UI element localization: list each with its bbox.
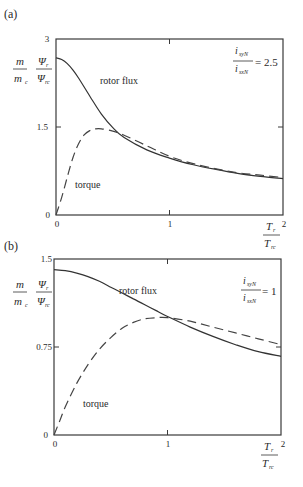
panel-a-ytick-label-top: 3 (45, 34, 50, 44)
panel-b-ytick-label-0: 0 (44, 430, 49, 440)
panel-a: (a) 3 1.5 0 0 1 2 m m c Ψ r Ψ rc i syN (4, 7, 286, 250)
svg-text:syN: syN (239, 51, 249, 57)
panel-b-torque-label: torque (83, 398, 109, 409)
svg-text:i: i (243, 292, 246, 303)
svg-text:i: i (243, 275, 246, 286)
svg-text:i: i (235, 45, 238, 56)
svg-text:T: T (266, 220, 273, 232)
ylabel-m: m (16, 55, 24, 67)
svg-text:m: m (14, 295, 22, 307)
ylabel-psi-sub: r (46, 62, 49, 68)
panel-a-ytick-label-0: 0 (46, 210, 51, 220)
panel-a-xtick-label-0: 0 (55, 219, 60, 229)
svg-text:T: T (264, 237, 271, 249)
panel-a-torque-curve (56, 129, 283, 215)
svg-text:sxN: sxN (239, 69, 249, 75)
svg-text:r: r (271, 447, 274, 453)
svg-text:rc: rc (269, 464, 274, 470)
panel-a-rotor-flux-label: rotor flux (100, 75, 138, 86)
panel-b-ylabel: m m c Ψ r Ψ rc (13, 278, 52, 308)
svg-text:T: T (264, 440, 271, 452)
panel-b-xtick-label-2: 2 (281, 439, 286, 449)
panel-a-label: (a) (4, 7, 17, 21)
svg-text:T: T (262, 457, 269, 469)
svg-text:rc: rc (271, 244, 276, 250)
svg-text:m: m (16, 278, 24, 290)
svg-text:r: r (46, 285, 49, 291)
panel-b-xlabel: T r T rc (261, 440, 278, 470)
panel-a-xtick-label-1: 1 (168, 219, 173, 229)
panel-b-torque-curve (54, 317, 281, 435)
panel-a-ylabel: m m c Ψ r Ψ rc (13, 55, 52, 85)
panel-b-ytick-label-top: 1.5 (41, 254, 53, 264)
figure: (a) 3 1.5 0 0 1 2 m m c Ψ r Ψ rc i syN (0, 0, 303, 487)
panel-a-ytick-label-mid: 1.5 (37, 122, 49, 132)
svg-text:= 2.5: = 2.5 (255, 56, 278, 68)
svg-text:= 1: = 1 (262, 285, 276, 297)
panel-b: (b) 1.5 0.75 0 0 1 2 m m c Ψ r Ψ rc i sy… (4, 239, 285, 470)
panel-b-annotation: i syN i sxN = 1 (241, 275, 276, 304)
panel-b-xtick-label-0: 0 (53, 439, 58, 449)
svg-text:i: i (235, 63, 238, 74)
panel-b-xtick-label-1: 1 (166, 439, 171, 449)
svg-text:c: c (25, 302, 28, 308)
panel-b-ytick-label-mid: 0.75 (36, 342, 52, 352)
panel-a-annotation: i syN i sxN = 2.5 (233, 45, 278, 75)
panel-a-rotor-flux-curve (56, 58, 283, 179)
svg-text:rc: rc (45, 302, 50, 308)
panel-a-xlabel: T r T rc (263, 220, 280, 250)
panel-a-torque-label: torque (75, 179, 101, 190)
svg-text:syN: syN (247, 281, 257, 287)
ylabel-mc-sub: c (25, 79, 28, 85)
panel-a-xtick-label-2: 2 (282, 219, 287, 229)
ylabel-mc: m (14, 72, 22, 84)
svg-text:sxN: sxN (247, 298, 257, 304)
panel-b-label: (b) (4, 239, 18, 253)
svg-text:r: r (273, 227, 276, 233)
ylabel-psirc-sub: rc (45, 79, 50, 85)
